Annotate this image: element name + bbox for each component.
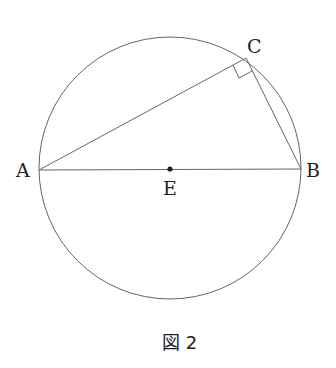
label-b: B (306, 159, 320, 181)
label-e: E (163, 177, 177, 199)
geometry-figure: A B C E 図 2 (0, 0, 336, 368)
right-angle-mark (233, 65, 252, 78)
label-a: A (15, 159, 30, 181)
chord-ac (39, 58, 246, 170)
label-c: C (247, 35, 262, 57)
figure-caption: 図 2 (162, 332, 197, 353)
center-point-e (167, 166, 172, 171)
chord-cb (246, 58, 301, 169)
